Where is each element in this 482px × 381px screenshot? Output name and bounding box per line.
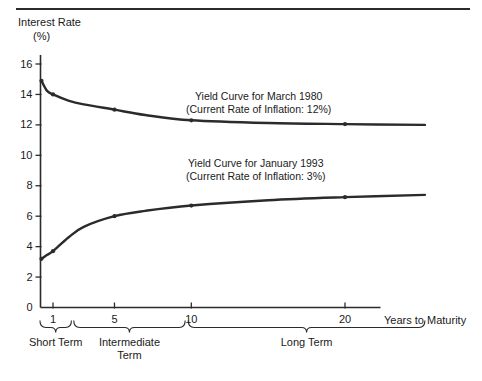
x-tick-label: 10	[176, 314, 206, 325]
y-tick-label: 10	[7, 150, 33, 161]
annotation-january-1993-line2: (Current Rate of Inflation: 3%)	[186, 170, 325, 183]
plot-area	[0, 0, 482, 381]
x-tick-label: 5	[99, 314, 129, 325]
y-tick-label: 14	[7, 89, 33, 100]
x-tick-label: 1	[38, 314, 68, 325]
maturity-bracket	[188, 321, 425, 333]
x-tick-label: 20	[330, 314, 360, 325]
y-tick-label: 6	[7, 211, 33, 222]
data-point-marker	[343, 122, 347, 126]
annotation-march-1980-line1: Yield Curve for March 1980	[186, 90, 331, 103]
y-tick-label: 16	[7, 59, 33, 70]
data-point-marker	[112, 108, 116, 112]
y-tick-label: 0	[7, 302, 33, 313]
annotation-march-1980: Yield Curve for March 1980 (Current Rate…	[186, 90, 331, 116]
maturity-group-label: IntermediateTerm	[49, 336, 209, 362]
data-point-marker	[39, 257, 43, 261]
data-point-marker	[51, 249, 55, 253]
data-point-marker	[343, 195, 347, 199]
annotation-january-1993-line1: Yield Curve for January 1993	[186, 157, 325, 170]
data-point-marker	[112, 214, 116, 218]
maturity-brackets-layer	[40, 321, 425, 333]
y-tick-label: 4	[7, 241, 33, 252]
series-line-january-1993	[41, 195, 424, 259]
annotation-march-1980-line2: (Current Rate of Inflation: 12%)	[186, 103, 331, 116]
data-point-marker	[51, 92, 55, 96]
data-point-marker	[189, 203, 193, 207]
y-tick-label: 8	[7, 180, 33, 191]
maturity-group-label-line2: Term	[49, 349, 209, 362]
yield-curve-figure: Interest Rate (%) Years to Maturity 0246…	[0, 0, 482, 381]
maturity-group-label-line1: Intermediate	[49, 336, 209, 349]
data-point-marker	[189, 118, 193, 122]
y-tick-label: 2	[7, 272, 33, 283]
annotation-january-1993: Yield Curve for January 1993 (Current Ra…	[186, 157, 325, 183]
maturity-group-label: Long Term	[227, 336, 387, 349]
y-tick-label: 12	[7, 119, 33, 130]
data-point-marker	[39, 79, 43, 83]
